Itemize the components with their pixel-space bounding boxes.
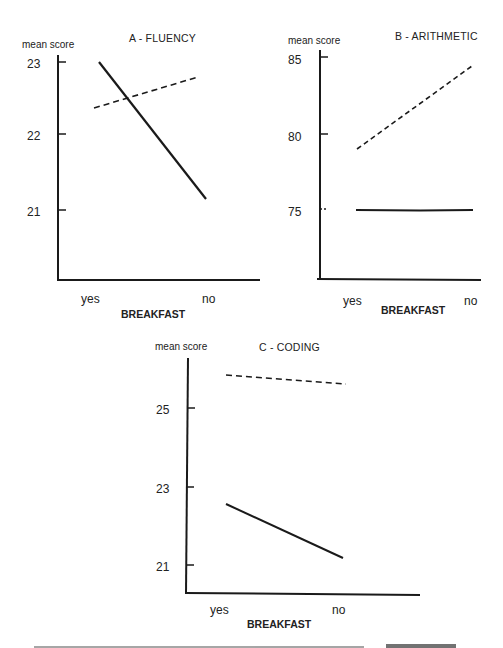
panel-c-dashed-line	[226, 375, 346, 384]
panel-b-ylabel: mean score	[288, 35, 341, 46]
panel-c-title: C - CODING	[259, 341, 320, 353]
panel-a-ytick-22: 22	[27, 129, 41, 143]
panel-b-ytick-80: 80	[288, 130, 302, 144]
panel-b-x-axis	[317, 279, 481, 280]
panel-c-ytick-25: 25	[156, 403, 170, 417]
panel-a-solid-line	[99, 62, 206, 199]
panel-a-xtick-no: no	[202, 292, 216, 306]
panel-c-xtick-yes: yes	[210, 603, 229, 617]
panel-c-coding: mean score C - CODING 25 23 21 yes no BR…	[155, 341, 420, 630]
panel-c-x-axis	[185, 593, 420, 595]
panel-c-ylabel: mean score	[155, 341, 208, 352]
panel-b-xtick-no: no	[464, 294, 478, 308]
panel-b-dashed-line	[357, 66, 472, 149]
panel-a-ylabel: mean score	[22, 39, 75, 50]
panel-a-dashed-line	[94, 77, 198, 108]
panel-b-title: B - ARITHMETIC	[395, 30, 478, 42]
caption-fragment	[34, 644, 456, 648]
panel-a-title: A - FLUENCY	[129, 32, 196, 44]
panel-c-xlabel: BREAKFAST	[247, 618, 312, 630]
panel-a-ytick-23: 23	[27, 57, 41, 71]
panel-c-y-axis	[186, 358, 188, 594]
panel-a-fluency: mean score A - FLUENCY 23 22 21 yes no B…	[22, 32, 260, 320]
caption-cutoff	[386, 644, 456, 648]
panel-b-ytick-75: 75	[288, 205, 302, 219]
panel-b-arithmetic: mean score B - ARITHMETIC 85 80 75 yes n…	[288, 30, 481, 316]
panel-c-ytick-21: 21	[156, 560, 170, 574]
panel-b-ytick-85: 85	[288, 53, 302, 67]
panel-b-solid-line	[356, 210, 473, 211]
panel-b-xlabel: BREAKFAST	[381, 304, 446, 316]
panel-b-xtick-yes: yes	[343, 294, 362, 308]
panel-c-xtick-no: no	[332, 603, 346, 617]
figure: mean score A - FLUENCY 23 22 21 yes no B…	[0, 0, 503, 648]
panel-c-ytick-23: 23	[156, 482, 170, 496]
panel-a-xtick-yes: yes	[81, 292, 100, 306]
panel-c-solid-line	[226, 504, 343, 558]
panel-a-xlabel: BREAKFAST	[121, 308, 186, 320]
panel-a-ytick-21: 21	[27, 205, 41, 219]
